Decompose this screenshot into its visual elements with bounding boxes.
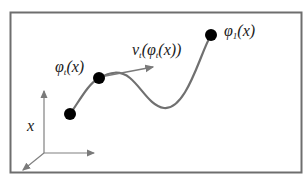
label-phi-1: φ1(x) xyxy=(224,23,255,41)
point-phi-1 xyxy=(205,29,217,41)
label-phi-t: φt(x) xyxy=(55,59,84,77)
label-v-close: (x)) xyxy=(158,41,181,58)
point-phi-t xyxy=(93,72,105,84)
label-v-inner-base: φ xyxy=(147,41,156,58)
label-velocity: vt(φt(x)) xyxy=(132,42,181,60)
label-phi-t-base: φ xyxy=(55,58,64,75)
diagram-canvas xyxy=(0,0,308,180)
label-phi-1-args: (x) xyxy=(237,22,255,39)
label-phi-1-base: φ xyxy=(224,22,233,39)
diagram-frame xyxy=(11,13,302,173)
label-x: x xyxy=(27,118,34,134)
label-phi-t-args: (x) xyxy=(66,58,84,75)
label-x-base: x xyxy=(27,117,34,134)
point-x xyxy=(64,108,76,120)
